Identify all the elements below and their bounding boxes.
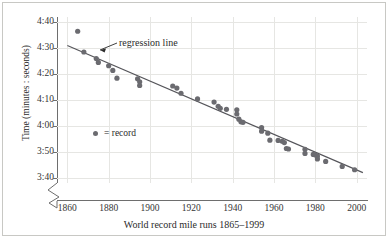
regression-line bbox=[67, 46, 363, 173]
x-tick-label: 1900 bbox=[141, 204, 160, 214]
x-tick-label: 1920 bbox=[182, 204, 201, 214]
scatter-point bbox=[81, 49, 86, 54]
scatter-point bbox=[106, 63, 111, 68]
regression-leader-arrow bbox=[100, 43, 117, 52]
scatter-point bbox=[178, 91, 183, 96]
legend-label: = record bbox=[104, 128, 136, 138]
scatter-point bbox=[218, 106, 223, 111]
scatter-point bbox=[286, 146, 291, 151]
scatter-point bbox=[323, 159, 328, 164]
x-tick-label: 1940 bbox=[223, 204, 242, 214]
x-axis-title: World record mile runs 1865–1999 bbox=[0, 219, 388, 230]
legend-marker-icon bbox=[93, 131, 98, 136]
y-tick-mark bbox=[53, 126, 57, 127]
figure-container: Time (minutes : seconds) 4:404:304:204:1… bbox=[0, 0, 388, 238]
scatter-point bbox=[302, 151, 307, 156]
scatter-point bbox=[137, 83, 142, 88]
scatter-point bbox=[224, 107, 229, 112]
scatter-point bbox=[267, 138, 272, 143]
regression-line-path bbox=[67, 46, 363, 173]
scatter-point bbox=[352, 167, 357, 172]
scatter-point bbox=[240, 120, 245, 125]
scatter-points bbox=[75, 29, 357, 173]
x-tick-label: 1860 bbox=[58, 204, 77, 214]
scatter-point bbox=[315, 156, 320, 161]
y-tick-mark bbox=[53, 74, 57, 75]
x-tick-label: 2000 bbox=[347, 204, 366, 214]
y-tick-mark bbox=[53, 22, 57, 23]
scatter-point bbox=[282, 140, 287, 145]
x-tick-label: 1980 bbox=[306, 204, 325, 214]
scatter-point bbox=[174, 85, 179, 90]
scatter-point bbox=[211, 99, 216, 104]
scatter-point bbox=[265, 131, 270, 136]
x-tick-label: 1880 bbox=[99, 204, 118, 214]
y-tick-mark bbox=[53, 100, 57, 101]
scatter-point bbox=[114, 76, 119, 81]
scatter-point bbox=[75, 29, 80, 34]
scatter-point bbox=[195, 96, 200, 101]
scatter-point bbox=[96, 60, 101, 65]
y-tick-mark bbox=[53, 152, 57, 153]
x-tick-label: 1960 bbox=[265, 204, 284, 214]
scatter-point bbox=[110, 68, 115, 73]
scatter-point bbox=[259, 129, 264, 134]
scatter-point bbox=[340, 164, 345, 169]
scatter-point bbox=[234, 111, 239, 116]
y-tick-mark bbox=[53, 178, 57, 179]
y-tick-mark bbox=[53, 48, 57, 49]
regression-line-annotation: regression line bbox=[119, 37, 178, 48]
